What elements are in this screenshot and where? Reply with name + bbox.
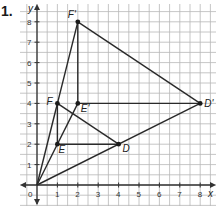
x-tick-label: 1: [55, 190, 60, 199]
y-tick-label: 3: [27, 120, 32, 129]
point-label-d-prime: D': [204, 98, 214, 109]
x-tick-label: 6: [157, 190, 162, 199]
x-tick-label: 4: [116, 190, 121, 199]
x-tick-label: 5: [137, 190, 142, 199]
coordinate-plane: y x 0 1234567812345678 FEDF'E'D': [0, 0, 219, 206]
origin-label: 0: [28, 190, 33, 199]
y-tick-label: 2: [27, 140, 32, 149]
x-axis-arrow-left: [20, 182, 26, 188]
y-tick-label: 1: [27, 161, 32, 170]
point-label-f: F: [46, 96, 53, 107]
x-tick-label: 8: [198, 190, 203, 199]
point-d-prime: [198, 101, 203, 106]
y-axis-label: y: [27, 3, 34, 14]
point-label-d: D: [123, 143, 130, 154]
x-axis-label: x: [207, 188, 214, 199]
y-tick-label: 5: [27, 79, 32, 88]
x-tick-label: 3: [96, 190, 101, 199]
y-axis-arrow-down: [34, 199, 40, 205]
point-d: [116, 142, 121, 147]
point-f: [55, 101, 60, 106]
point-label-e-prime: E': [81, 103, 91, 114]
y-tick-label: 6: [27, 59, 32, 68]
y-tick-label: 8: [27, 18, 32, 27]
point-label-e: E: [58, 144, 65, 155]
point-label-f-prime: F': [68, 9, 77, 20]
y-axis-arrow-up: [34, 4, 40, 10]
x-tick-label: 7: [177, 190, 182, 199]
point-f-prime: [75, 19, 80, 24]
point-e-prime: [75, 101, 80, 106]
points: FEDF'E'D': [46, 9, 214, 155]
tick-labels: 1234567812345678: [27, 18, 203, 199]
x-tick-label: 2: [75, 190, 80, 199]
y-tick-label: 7: [27, 38, 32, 47]
y-tick-label: 4: [27, 99, 32, 108]
